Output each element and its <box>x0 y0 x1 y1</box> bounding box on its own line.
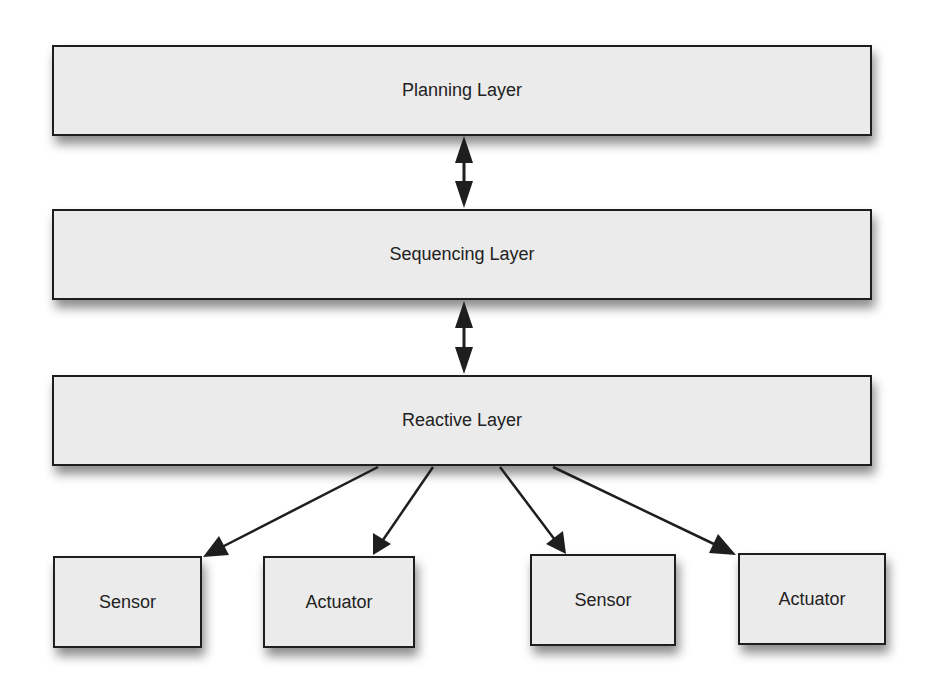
sensor-box-1: Sensor <box>53 556 202 648</box>
double-arrow-icon <box>455 301 473 374</box>
arrow-icon <box>203 467 378 557</box>
planning-layer-box: Planning Layer <box>52 45 872 136</box>
reactive-layer-label: Reactive Layer <box>402 410 522 431</box>
arrow-icon <box>553 467 736 555</box>
reactive-layer-box: Reactive Layer <box>52 375 872 466</box>
actuator-box-1: Actuator <box>263 556 415 648</box>
sensor-label-1: Sensor <box>99 592 156 613</box>
double-arrow-icon <box>455 136 473 208</box>
planning-layer-label: Planning Layer <box>402 80 522 101</box>
arrow-icon <box>373 467 433 555</box>
actuator-label-1: Actuator <box>305 592 372 613</box>
sequencing-layer-label: Sequencing Layer <box>389 244 534 265</box>
sensor-box-2: Sensor <box>530 554 676 646</box>
actuator-box-2: Actuator <box>738 553 886 645</box>
sequencing-layer-box: Sequencing Layer <box>52 209 872 300</box>
actuator-label-2: Actuator <box>778 589 845 610</box>
sensor-label-2: Sensor <box>574 590 631 611</box>
arrow-icon <box>500 467 566 554</box>
